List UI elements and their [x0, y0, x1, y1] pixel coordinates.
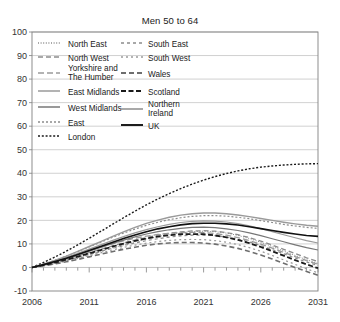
x-tick-label: 2016: [136, 297, 156, 307]
y-tick-label: 10: [17, 239, 27, 249]
legend-label-east-midlands: East Midlands: [68, 88, 119, 97]
legend-label-wales: Wales: [148, 70, 170, 79]
legend-label-northern-ireland: NorthernIreland: [148, 100, 180, 118]
y-tick-label: 20: [17, 216, 27, 226]
legend-label-uk: UK: [148, 122, 160, 131]
legend-label-north-east: North East: [68, 40, 107, 49]
y-tick-label: 30: [17, 192, 27, 202]
legend-label-south-west: South West: [148, 54, 191, 63]
x-tick-label: 2006: [22, 297, 42, 307]
legend-label-north-west: North West: [68, 54, 110, 63]
y-tick-label: 90: [17, 51, 27, 61]
y-axis-labels: -100102030405060708090100: [12, 27, 27, 296]
y-tick-label: 0: [22, 263, 27, 273]
y-tick-label: 50: [17, 145, 27, 155]
chart-figure: Men 50 to 64 -100102030405060708090100 2…: [0, 0, 340, 322]
data-series-group: [32, 164, 318, 276]
legend-label-scotland: Scotland: [148, 88, 180, 97]
y-tick-label: -10: [14, 286, 27, 296]
y-tick-label: 60: [17, 121, 27, 131]
y-tick-label: 40: [17, 168, 27, 178]
x-tick-label: 2011: [80, 297, 99, 307]
legend-label-london: London: [68, 133, 96, 142]
x-axis-labels: 200620112016202120262031: [22, 297, 328, 307]
legend-label-west-midlands: West Midlands: [68, 104, 122, 113]
x-tick-label: 2021: [194, 297, 214, 307]
x-tick-label: 2031: [308, 297, 328, 307]
legend-label-east: East: [68, 119, 85, 128]
chart-plot-area: -100102030405060708090100 20062011201620…: [0, 0, 340, 322]
x-tick-label: 2026: [251, 297, 271, 307]
y-tick-label: 70: [17, 98, 27, 108]
x-axis-ticks: [32, 267, 318, 272]
legend-label-south-east: South East: [148, 40, 189, 49]
y-tick-label: 100: [12, 27, 27, 37]
legend-label-yorkshire-and-the-humber: Yorkshire andThe Humber: [68, 64, 118, 82]
series-line-yorkshire-and-the-humber: [32, 232, 318, 267]
y-tick-label: 80: [17, 74, 27, 84]
